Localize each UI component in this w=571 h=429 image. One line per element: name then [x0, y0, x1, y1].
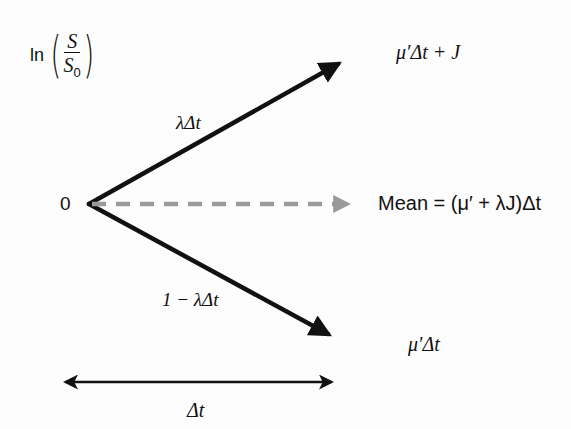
- no-jump-probability-label: 1 − λΔt: [162, 290, 218, 309]
- time-span-label: Δt: [187, 400, 204, 420]
- right-paren: ): [83, 30, 94, 80]
- fraction-denominator: S0: [64, 53, 81, 79]
- mean-label: Mean = (μ′ + λJ)Δt: [378, 193, 541, 213]
- y-axis-label: ln ( S S0 ): [30, 30, 98, 80]
- left-paren: (: [50, 30, 61, 80]
- fraction: S S0: [64, 31, 81, 79]
- jump-endpoint-label: μ′Δt + J: [396, 42, 460, 62]
- jump-probability-label: λΔt: [176, 113, 201, 132]
- no-jump-branch-arrow: [89, 204, 328, 334]
- ln-text: ln: [30, 46, 44, 64]
- denominator-subscript: 0: [74, 65, 81, 80]
- origin-label: 0: [60, 194, 71, 213]
- fraction-numerator: S: [64, 31, 80, 53]
- mean-label-text: Mean = (μ′ + λJ)Δt: [378, 192, 541, 214]
- jump-diffusion-diagram: ln ( S S0 ) 0 λΔt μ′Δt + J Mean = (μ′ + …: [0, 0, 571, 429]
- no-jump-endpoint-label: μ′Δt: [408, 334, 440, 354]
- jump-branch-arrow: [89, 64, 338, 204]
